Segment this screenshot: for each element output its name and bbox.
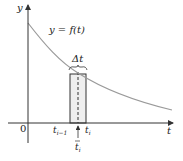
t-i-label: ti bbox=[85, 125, 91, 136]
curve-f bbox=[28, 23, 172, 110]
delta-t-label: Δt bbox=[71, 53, 84, 64]
y-axis-label: y bbox=[16, 2, 23, 13]
curve-label: y = f(t) bbox=[48, 24, 85, 35]
origin-label: 0 bbox=[20, 123, 26, 134]
t-i-minus-1-label: ti−1 bbox=[53, 125, 67, 136]
riemann-rectangle-diagram: y t 0 y = f(t) Δt ti−1 ti ti bbox=[0, 0, 183, 161]
t-bar-i-label: ti bbox=[75, 142, 81, 153]
x-axis-label: t bbox=[167, 125, 172, 136]
